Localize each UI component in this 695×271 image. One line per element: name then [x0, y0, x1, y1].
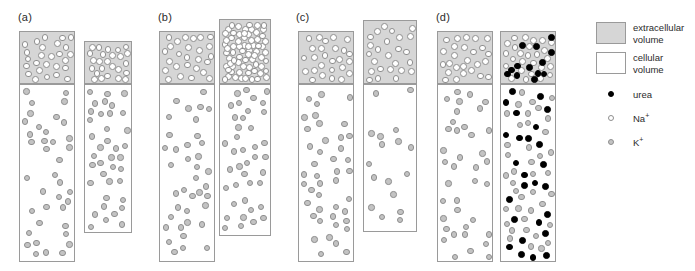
urea-particle [539, 59, 546, 66]
na-particle [104, 58, 111, 65]
k-particle [343, 218, 349, 224]
na-particle [311, 67, 318, 74]
k-particle [510, 180, 516, 186]
k-particle [43, 129, 49, 135]
na-particle [124, 50, 131, 57]
na-particle [184, 62, 191, 69]
k-particle [43, 204, 49, 210]
na-particle [43, 61, 50, 68]
na-particle [517, 50, 524, 57]
panel-c-left-cellular-compartment [298, 84, 354, 262]
urea-particle [533, 124, 540, 131]
k-particle [196, 189, 202, 195]
na-particle [251, 52, 258, 59]
k-particle [175, 204, 181, 210]
k-particle [120, 110, 126, 116]
k-particle [312, 112, 318, 118]
na-particle [384, 38, 391, 45]
k-particle [347, 94, 353, 100]
legend-label-cellular: cellular volume [633, 52, 695, 75]
k-particle [60, 204, 66, 210]
na-particle [503, 50, 510, 57]
k-particle [549, 95, 555, 101]
k-particle [404, 171, 410, 177]
na-particle [262, 38, 269, 45]
na-particle [115, 75, 122, 82]
k-particle [486, 231, 492, 237]
k-particle [184, 142, 190, 148]
na-particle [223, 37, 230, 44]
na-particle [263, 68, 270, 75]
k-particle [252, 144, 258, 150]
na-particle [100, 51, 107, 58]
k-particle [479, 150, 485, 156]
k-particle [338, 145, 344, 151]
k-particle [318, 91, 324, 97]
na-particle [368, 68, 375, 75]
k-particle [454, 108, 460, 114]
k-particle [173, 98, 179, 104]
urea-particle [533, 43, 540, 50]
na-particle [371, 58, 378, 65]
urea-particle [536, 141, 543, 148]
urea-particle [543, 252, 550, 259]
k-particle [199, 140, 205, 146]
na-particle [346, 70, 353, 77]
panel-a-right-extracellular-compartment [84, 41, 132, 84]
k-particle [91, 153, 97, 159]
na-particle [38, 52, 45, 59]
k-particle [23, 88, 29, 94]
k-particle [117, 178, 123, 184]
legend-swatch-extracellular [596, 22, 626, 44]
na-particle [322, 52, 329, 59]
na-particle [463, 34, 470, 41]
na-particle [91, 76, 98, 83]
k-particle [366, 161, 372, 167]
na-particle [392, 60, 399, 67]
k-particle [24, 242, 30, 248]
na-particle [374, 28, 381, 35]
k-particle [222, 225, 228, 231]
k-particle [368, 130, 374, 136]
na-particle [525, 52, 532, 59]
legend-label-urea: urea [633, 89, 652, 100]
k-particle [111, 211, 117, 217]
na-particle [104, 73, 111, 80]
na-particle [477, 73, 484, 80]
na-particle [318, 62, 325, 69]
na-particle [367, 42, 374, 49]
k-particle [223, 185, 229, 191]
k-particle [61, 98, 67, 104]
na-particle [87, 50, 94, 57]
k-particle [243, 87, 249, 93]
na-particle [474, 61, 481, 68]
k-particle [53, 114, 59, 120]
k-particle [29, 100, 35, 106]
k-particle [445, 180, 451, 186]
k-particle [180, 233, 186, 239]
panel-a-column-left [19, 0, 75, 271]
na-particle [48, 53, 55, 60]
na-particle [36, 67, 43, 74]
urea-particle [542, 230, 549, 237]
k-particle [537, 153, 543, 159]
na-particle [263, 58, 270, 65]
k-particle [33, 251, 39, 257]
k-particle [257, 180, 263, 186]
k-particle [231, 148, 237, 154]
panel-a-left-extracellular-compartment [19, 31, 75, 84]
na-particle [262, 49, 269, 56]
k-particle [104, 138, 110, 144]
k-particle [530, 171, 536, 177]
k-particle [62, 223, 68, 229]
k-particle [318, 251, 324, 257]
k-particle [106, 178, 112, 184]
k-particle [484, 158, 490, 164]
na-particle [330, 34, 337, 41]
na-particle [207, 34, 214, 41]
na-particle [366, 51, 373, 58]
k-particle [345, 157, 351, 163]
na-particle [329, 67, 336, 74]
na-particle [94, 70, 101, 77]
k-particle [194, 133, 200, 139]
